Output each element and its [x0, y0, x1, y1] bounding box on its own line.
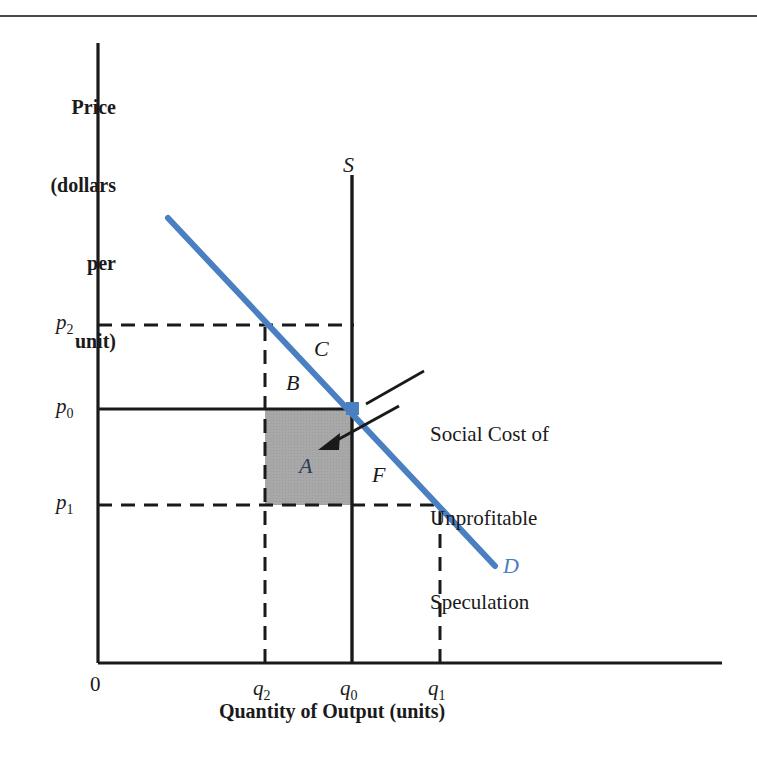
- x-tick-label-q0: q0: [340, 676, 358, 704]
- annotation-line: Unprofitable: [430, 504, 549, 532]
- annotation-line: Social Cost of: [430, 420, 549, 448]
- x-axis-title: Quantity of Output (units): [98, 700, 566, 723]
- region-label-C: C: [314, 336, 329, 362]
- annotation-callout: Social Cost of Unprofitable Speculation: [430, 364, 549, 672]
- figure-canvas: Price (dollars per unit) Quantity of Out…: [0, 0, 757, 768]
- equilibrium-point-marker: [346, 402, 359, 415]
- annotation-leader-line: [366, 371, 424, 404]
- region-label-F: F: [372, 462, 385, 488]
- y-tick-label-p2: p2: [56, 310, 74, 338]
- annotation-line: Speculation: [430, 588, 549, 616]
- x-tick-label-q2: q2: [253, 676, 271, 704]
- region-label-A: A: [299, 453, 312, 479]
- y-axis-title-line: per: [8, 250, 116, 276]
- supply-curve-label: S: [343, 152, 354, 178]
- y-tick-label-p0: p0: [56, 394, 74, 422]
- origin-label: 0: [90, 672, 101, 697]
- y-axis-title-line: (dollars: [8, 172, 116, 198]
- y-axis-title-line: Price: [8, 94, 116, 120]
- x-tick-label-q1: q1: [428, 676, 446, 704]
- region-label-B: B: [286, 370, 299, 396]
- y-tick-label-p1: p1: [56, 490, 74, 518]
- y-axis-title: Price (dollars per unit): [8, 42, 116, 406]
